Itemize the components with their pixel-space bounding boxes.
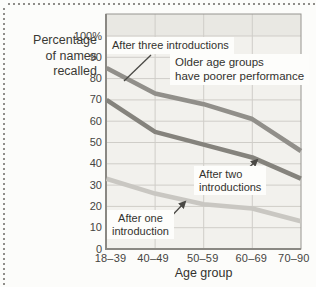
series-label-after-three-introductions: After three introductions: [107, 37, 234, 54]
x-axis-title: Age group: [106, 266, 301, 280]
y-tick-label: 10: [56, 221, 102, 233]
y-tick-label: 90: [56, 51, 102, 63]
y-tick-label: 30: [56, 179, 102, 191]
y-tick-label: 40: [56, 157, 102, 169]
series-label-after-two-introductions: After two introductions: [194, 166, 266, 195]
figure-panel: Percentage of names recalled 01020304050…: [0, 0, 316, 287]
annotation-note: Older age groups have poorer performance: [170, 54, 309, 85]
y-tick-label: 80: [56, 72, 102, 84]
x-tick-label: 70–90: [264, 252, 316, 264]
y-tick-label: 100%: [56, 30, 102, 42]
y-tick-label: 60: [56, 115, 102, 127]
series-label-after-one-introduction: After one introduction: [107, 210, 174, 239]
y-tick-label: 50: [56, 136, 102, 148]
y-tick-label: 20: [56, 200, 102, 212]
y-tick-label: 70: [56, 93, 102, 105]
